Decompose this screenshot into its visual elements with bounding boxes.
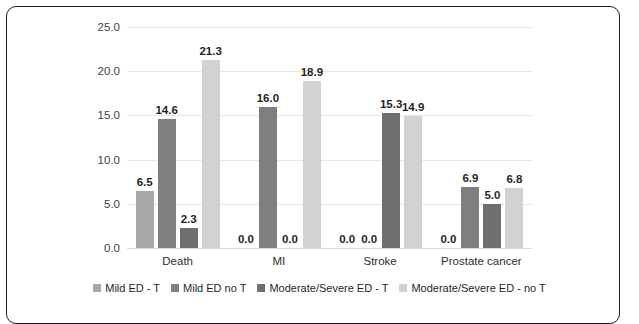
bar[interactable] bbox=[483, 204, 501, 248]
bar[interactable] bbox=[404, 116, 422, 248]
legend-item[interactable]: Moderate/Severe ED - T bbox=[257, 282, 388, 294]
y-tick-label: 0.0 bbox=[74, 242, 120, 254]
y-tick-label: 5.0 bbox=[74, 198, 120, 210]
y-axis-title: Percent % bbox=[0, 88, 1, 145]
bar-group: 0.06.95.06.8 bbox=[431, 27, 532, 248]
bar-slot: 6.9 bbox=[461, 27, 479, 248]
bar-slot: 0.0 bbox=[281, 27, 299, 248]
bar-value-label: 16.0 bbox=[257, 92, 279, 104]
bar-value-label: 0.0 bbox=[339, 233, 355, 245]
x-axis-line bbox=[127, 248, 532, 249]
bar-value-label: 14.6 bbox=[155, 104, 177, 116]
legend-label: Moderate/Severe ED - no T bbox=[411, 282, 545, 294]
bar-value-label: 15.3 bbox=[380, 98, 402, 110]
bar[interactable] bbox=[505, 188, 523, 248]
bar-value-label: 6.8 bbox=[506, 173, 522, 185]
bar-slot: 0.0 bbox=[360, 27, 378, 248]
bar-value-label: 0.0 bbox=[238, 233, 254, 245]
bar-group: 0.016.00.018.9 bbox=[228, 27, 329, 248]
bar-slot: 0.0 bbox=[439, 27, 457, 248]
bar-slot: 6.5 bbox=[136, 27, 154, 248]
bar-value-label: 14.9 bbox=[402, 101, 424, 113]
bar[interactable] bbox=[461, 187, 479, 248]
legend-swatch-icon bbox=[171, 284, 179, 292]
legend-item[interactable]: Mild ED no T bbox=[171, 282, 246, 294]
bar-value-label: 21.3 bbox=[199, 45, 221, 57]
bar-slot: 0.0 bbox=[338, 27, 356, 248]
bar-value-label: 0.0 bbox=[282, 233, 298, 245]
bar[interactable] bbox=[259, 107, 277, 248]
legend-item[interactable]: Mild ED - T bbox=[93, 282, 160, 294]
bar-value-label: 0.0 bbox=[361, 233, 377, 245]
plot-area: 6.514.62.321.30.016.00.018.90.00.015.314… bbox=[127, 27, 532, 248]
legend-label: Mild ED - T bbox=[105, 282, 160, 294]
bar-slot: 16.0 bbox=[259, 27, 277, 248]
x-axis-ticks: DeathMIStrokeProstate cancer bbox=[127, 255, 532, 273]
y-tick-label: 20.0 bbox=[74, 65, 120, 77]
bar-value-label: 0.0 bbox=[440, 233, 456, 245]
legend-item[interactable]: Moderate/Severe ED - no T bbox=[399, 282, 545, 294]
bar-value-label: 6.9 bbox=[462, 172, 478, 184]
bar[interactable] bbox=[136, 191, 154, 248]
bar-slot: 6.8 bbox=[505, 27, 523, 248]
y-tick-label: 15.0 bbox=[74, 109, 120, 121]
y-axis-ticks: 0.05.010.015.020.025.0 bbox=[72, 27, 120, 248]
bar-slot: 14.6 bbox=[158, 27, 176, 248]
bar-value-label: 2.3 bbox=[181, 213, 197, 225]
chart-legend: Mild ED - TMild ED no TModerate/Severe E… bbox=[0, 282, 639, 294]
bar-slot: 5.0 bbox=[483, 27, 501, 248]
bar-value-label: 18.9 bbox=[301, 66, 323, 78]
y-tick-label: 25.0 bbox=[74, 21, 120, 33]
bar-slot: 14.9 bbox=[404, 27, 422, 248]
x-tick-label: Stroke bbox=[364, 255, 397, 267]
bar[interactable] bbox=[303, 81, 321, 248]
bar-slot: 21.3 bbox=[202, 27, 220, 248]
bar[interactable] bbox=[382, 113, 400, 248]
legend-swatch-icon bbox=[399, 284, 407, 292]
bar-slot: 15.3 bbox=[382, 27, 400, 248]
legend-swatch-icon bbox=[257, 284, 265, 292]
x-tick-label: MI bbox=[272, 255, 285, 267]
bar-slot: 0.0 bbox=[237, 27, 255, 248]
y-tick-label: 10.0 bbox=[74, 154, 120, 166]
bar[interactable] bbox=[180, 228, 198, 248]
bar-value-label: 5.0 bbox=[484, 189, 500, 201]
bar-value-label: 6.5 bbox=[137, 176, 153, 188]
bar-group: 6.514.62.321.3 bbox=[127, 27, 228, 248]
bar-slot: 18.9 bbox=[303, 27, 321, 248]
legend-label: Moderate/Severe ED - T bbox=[269, 282, 388, 294]
bar[interactable] bbox=[202, 60, 220, 248]
x-tick-label: Prostate cancer bbox=[441, 255, 522, 267]
bar-group: 0.00.015.314.9 bbox=[330, 27, 431, 248]
legend-label: Mild ED no T bbox=[183, 282, 246, 294]
bar[interactable] bbox=[158, 119, 176, 248]
legend-swatch-icon bbox=[93, 284, 101, 292]
x-tick-label: Death bbox=[162, 255, 193, 267]
bar-slot: 2.3 bbox=[180, 27, 198, 248]
